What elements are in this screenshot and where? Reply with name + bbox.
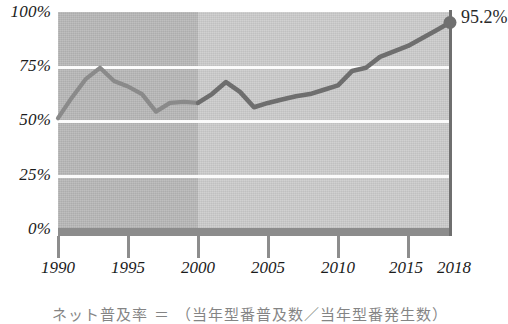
plot-area	[58, 12, 450, 231]
x-axis-label-1990: 1990	[41, 258, 75, 278]
gridline-75	[58, 66, 450, 69]
x-tick-2000	[197, 236, 200, 258]
x-axis-label-2018: 2018	[437, 258, 471, 278]
y-axis-label-0: 0%	[0, 219, 51, 239]
x-tick-1995	[127, 236, 130, 258]
x-tick-2015	[407, 236, 410, 258]
y-axis-label-25: 25%	[0, 165, 51, 185]
x-axis-label-2010: 2010	[321, 258, 355, 278]
y-axis-label-50: 50%	[0, 110, 51, 130]
x-axis-label-2005: 2005	[251, 258, 285, 278]
end-value-label: 95.2%	[461, 7, 508, 28]
x-axis-label-1995: 1995	[111, 258, 145, 278]
x-tick-2010	[337, 236, 340, 258]
y-axis-label-100: 100%	[0, 2, 51, 22]
gridline-25	[58, 175, 450, 178]
x-tick-1990	[57, 236, 60, 258]
x-tick-2005	[267, 236, 270, 258]
gridline-50	[58, 120, 450, 123]
chart-caption: ネット普及率 ＝ （当年型番普及数／当年型番発生数）	[0, 303, 500, 324]
x-axis-label-2000: 2000	[181, 258, 215, 278]
y-axis-label-75: 75%	[0, 56, 51, 76]
axis-baseline-bar	[58, 228, 452, 236]
x-axis-label-2015: 2015	[389, 258, 423, 278]
axis-line-2018	[449, 10, 452, 236]
